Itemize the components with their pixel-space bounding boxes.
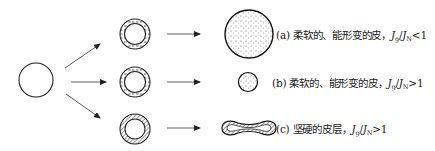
- ring-icon-a: [120, 19, 150, 49]
- label-c-relation: >1: [372, 123, 387, 135]
- label-a-relation: <1: [412, 29, 427, 41]
- label-b-relation: >1: [408, 77, 423, 89]
- label-row-a: (a) 柔软的、能形变的皮，Jg/JN<1: [276, 27, 427, 43]
- ring-icon-c: [120, 114, 150, 144]
- result-collapsed-particle-c: [222, 121, 276, 135]
- label-a-text: (a) 柔软的、能形变的皮，: [276, 29, 391, 41]
- result-large-particle-a: [225, 10, 273, 58]
- label-row-b: (b) 柔软的、能形变的皮，Jg/JN>1: [272, 75, 423, 91]
- result-small-particle-b: [239, 73, 258, 92]
- branch-arrows: [65, 44, 106, 118]
- ring-icon-b: [120, 67, 150, 97]
- row-arrows: [167, 34, 200, 128]
- label-b-text: (b) 柔软的、能形变的皮，: [272, 77, 387, 89]
- label-c-text: (c) 坚硬的皮层，: [276, 123, 351, 135]
- start-droplet: [19, 63, 53, 97]
- label-row-c: (c) 坚硬的皮层，Jg/JN>1: [276, 121, 387, 137]
